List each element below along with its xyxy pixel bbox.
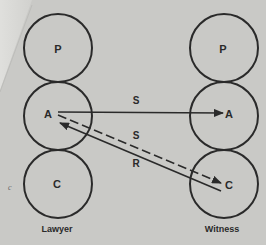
witness-child-circle <box>190 150 258 218</box>
witness-column: P A C Witness <box>190 14 258 234</box>
witness-parent-label: P <box>219 43 226 55</box>
witness-adult-label: A <box>225 108 233 120</box>
transaction-diagram: P A C Lawyer P A C Witness S S R <box>0 0 266 245</box>
stimulus-arrow-adult-to-child <box>58 115 221 183</box>
stimulus-arrow-adult-to-adult <box>58 112 223 113</box>
response-arrow-child-to-adult <box>60 123 221 191</box>
stimulus-label-1: S <box>133 95 140 106</box>
transactions: S S R <box>58 95 223 191</box>
stray-mark: c <box>8 183 12 192</box>
response-label: R <box>132 158 140 169</box>
witness-child-label: C <box>225 179 233 191</box>
witness-label: Witness <box>205 224 239 234</box>
diagram-canvas: P A C Lawyer P A C Witness S S R <box>0 0 266 245</box>
stimulus-label-2: S <box>133 130 140 141</box>
lawyer-child-label: C <box>53 178 61 190</box>
witness-adult-circle <box>190 82 258 150</box>
lawyer-column: P A C Lawyer <box>24 14 92 234</box>
lawyer-adult-circle <box>24 82 92 150</box>
lawyer-adult-label: A <box>44 108 52 120</box>
paper-fold <box>0 0 32 90</box>
lawyer-parent-label: P <box>54 43 61 55</box>
lawyer-label: Lawyer <box>41 224 73 234</box>
